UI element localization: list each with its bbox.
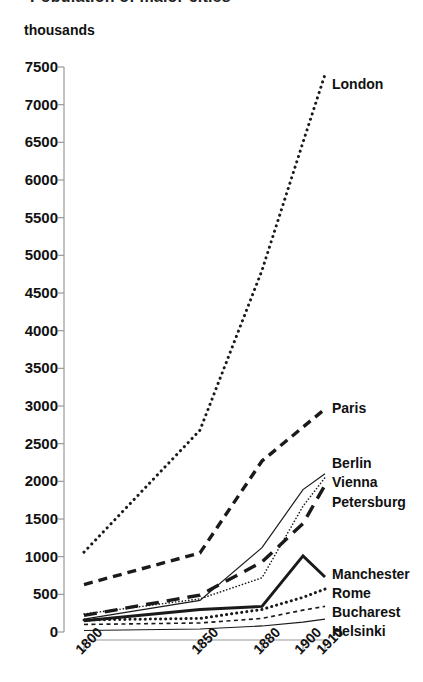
series-line-paris [84,409,325,585]
series-label-manchester: Manchester [332,566,410,582]
series-line-london [84,75,325,553]
series-label-rome: Rome [332,585,371,601]
population-line-chart: Population of major cities thousands 050… [0,0,423,682]
series-label-berlin: Berlin [332,455,372,471]
series-label-helsinki: Helsinki [332,623,386,639]
series-label-london: London [332,76,383,92]
series-line-rome [84,589,325,620]
series-label-vienna: Vienna [332,474,378,490]
series-line-manchester [84,556,325,621]
series-label-petersburg: Petersburg [332,494,406,510]
series-label-paris: Paris [332,400,366,416]
series-label-bucharest: Bucharest [332,604,400,620]
